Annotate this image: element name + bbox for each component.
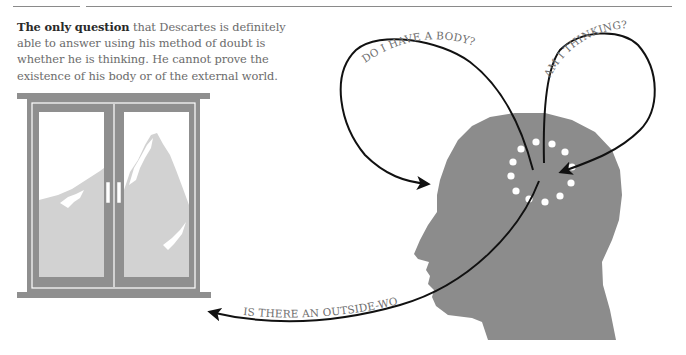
left-handle <box>106 182 110 203</box>
window-top-cap <box>17 93 210 99</box>
question-thinking-label: AM I THINKING? <box>541 18 628 80</box>
window-illustration <box>17 93 211 298</box>
window-sill <box>17 292 211 298</box>
question-body-label: DO I HAVE A BODY? <box>360 29 477 64</box>
right-handle <box>117 182 121 203</box>
